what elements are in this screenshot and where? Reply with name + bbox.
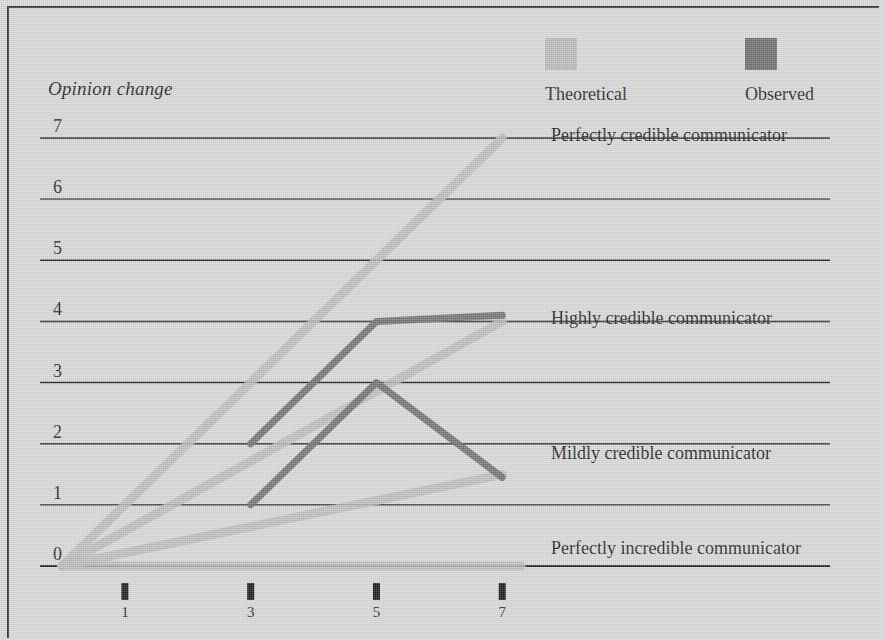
legend-item-observed[interactable]: Observed (745, 38, 814, 105)
theoretical-swatch (545, 38, 577, 70)
y-tick-label-6: 6 (40, 177, 62, 198)
x-tick-label-7: 7 (490, 604, 514, 621)
y-tick-label-3: 3 (40, 361, 62, 382)
x-tick-mark-1 (121, 583, 128, 600)
y-tick-label-5: 5 (40, 238, 62, 259)
row-label-3: Perfectly incredible communicator (551, 538, 801, 559)
x-tick-marks-group (121, 583, 505, 600)
y-tick-label-2: 2 (40, 422, 62, 443)
observed-swatch (745, 38, 777, 70)
y-axis-title: Opinion change (48, 78, 173, 100)
y-tick-label-4: 4 (40, 299, 62, 320)
legend-label-1: Observed (745, 84, 814, 105)
row-label-1: Highly credible communicator (551, 308, 772, 329)
legend-label-0: Theoretical (545, 84, 627, 105)
y-tick-label-1: 1 (40, 483, 62, 504)
y-tick-label-7: 7 (40, 116, 62, 137)
x-tick-mark-3 (247, 583, 254, 600)
series-line (62, 138, 502, 566)
series-group (62, 138, 521, 566)
x-tick-label-1: 1 (113, 604, 137, 621)
y-tick-label-0: 0 (40, 544, 62, 565)
row-label-0: Perfectly credible communicator (551, 125, 787, 146)
chart-stage: Opinion change 01234567 1357 Perfectly c… (0, 0, 885, 640)
x-tick-mark-7 (499, 583, 506, 600)
x-tick-mark-5 (373, 583, 380, 600)
x-tick-label-5: 5 (364, 604, 388, 621)
row-label-2: Mildly credible communicator (551, 443, 771, 464)
series-line (62, 474, 502, 566)
legend-item-theoretical[interactable]: Theoretical (545, 38, 627, 105)
x-tick-label-3: 3 (239, 604, 263, 621)
